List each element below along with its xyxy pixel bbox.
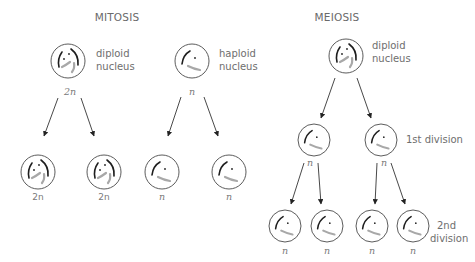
ploidy-label: n xyxy=(159,191,165,202)
first-division-label: 1st division xyxy=(406,134,463,145)
mitosis-diploid-daughter-cell-1 xyxy=(21,155,55,189)
arrow-icon xyxy=(391,163,405,204)
mitosis-haploid-parent-cell xyxy=(175,44,209,78)
meiosis-first-division-cell-2 xyxy=(365,124,397,156)
meiosis-second-division-cell-2 xyxy=(311,210,343,242)
arrow-icon xyxy=(81,98,94,136)
meiosis-diploid-label-line2: nucleus xyxy=(372,53,411,64)
ploidy-label: n xyxy=(324,245,330,256)
mitosis-diploid-parent-cell xyxy=(51,44,85,78)
mitosis-diploid-label-line2: nucleus xyxy=(96,61,135,72)
mitosis-haploid-daughter-cell-2 xyxy=(212,155,246,189)
ploidy-label: n xyxy=(410,245,416,256)
ploidy-label: 2n xyxy=(98,192,109,202)
ploidy-label: n xyxy=(369,245,375,256)
arrow-icon xyxy=(168,97,181,136)
arrow-icon xyxy=(204,97,218,136)
ploidy-label: n xyxy=(282,245,288,256)
meiosis-second-division-cell-1 xyxy=(269,210,301,242)
section-title-mitosis: MITOSIS xyxy=(95,11,140,23)
arrow-icon xyxy=(44,98,58,136)
arrow-icon xyxy=(291,163,304,204)
second-division-label-line1: 2nd xyxy=(437,220,456,231)
meiosis-second-division-cell-3 xyxy=(356,210,388,242)
ploidy-label: 2n xyxy=(63,86,76,97)
arrow-icon xyxy=(321,78,335,118)
ploidy-label: n xyxy=(189,86,195,97)
mitosis-haploid-daughter-cell-1 xyxy=(145,155,179,189)
cell-division-diagram: MITOSIS MEIOSIS diploid nucleus 2n 2n 2n… xyxy=(0,0,475,262)
second-division-label-line2: division xyxy=(430,233,468,244)
mitosis-haploid-label-line1: haploid xyxy=(219,48,256,59)
arrow-icon xyxy=(375,163,377,204)
ploidy-label: n xyxy=(381,157,387,168)
meiosis-diploid-label-line1: diploid xyxy=(372,40,406,51)
meiosis-second-division-cell-4 xyxy=(397,210,429,242)
arrow-icon xyxy=(318,163,321,204)
meiosis-first-division-cell-1 xyxy=(298,124,330,156)
mitosis-haploid-label-line2: nucleus xyxy=(219,61,258,72)
mitosis-diploid-label-line1: diploid xyxy=(96,48,130,59)
ploidy-label: 2n xyxy=(32,192,43,202)
mitosis-diploid-daughter-cell-2 xyxy=(87,155,121,189)
section-title-meiosis: MEIOSIS xyxy=(315,11,360,23)
ploidy-label: n xyxy=(307,157,313,168)
ploidy-label: n xyxy=(226,191,232,202)
meiosis-diploid-parent-cell xyxy=(329,39,363,73)
arrow-icon xyxy=(357,78,371,118)
